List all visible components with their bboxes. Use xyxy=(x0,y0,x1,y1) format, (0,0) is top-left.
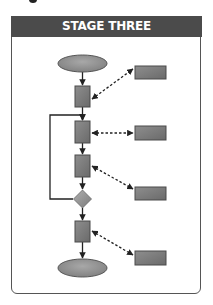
external-box-2 xyxy=(135,126,166,140)
link-step3-ext3 xyxy=(92,166,133,189)
end-ellipse xyxy=(58,259,107,277)
external-box-3 xyxy=(135,187,166,200)
dashed-links xyxy=(92,69,133,255)
decision-diamond xyxy=(74,190,92,208)
process-box-2 xyxy=(75,121,90,143)
process-box-4 xyxy=(75,221,90,242)
external-box-4 xyxy=(135,251,166,265)
process-box-1 xyxy=(75,86,90,107)
flowchart xyxy=(0,0,213,305)
process-box-3 xyxy=(75,155,90,177)
link-step4-ext4 xyxy=(92,231,133,255)
start-ellipse xyxy=(58,55,107,72)
link-step1-ext1 xyxy=(92,69,133,99)
external-box-1 xyxy=(135,66,166,79)
